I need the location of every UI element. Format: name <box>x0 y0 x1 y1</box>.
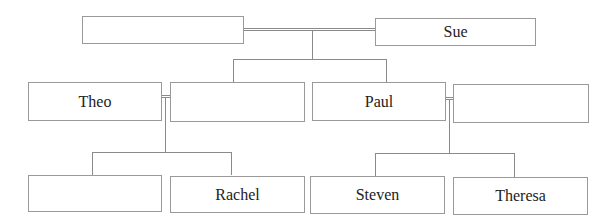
person-box-theo: Theo <box>28 82 162 121</box>
marriage-line-theo <box>162 95 170 98</box>
child-drop <box>92 152 93 175</box>
descent-line-gen1 <box>312 30 313 59</box>
sibling-bar-paul-children <box>375 153 515 154</box>
person-box-paul-spouse-blank <box>453 84 589 123</box>
person-box-paul: Paul <box>312 82 446 121</box>
person-name: Theresa <box>495 187 546 205</box>
person-name: Theo <box>79 93 112 111</box>
child-drop-left <box>233 59 234 82</box>
person-box-theresa: Theresa <box>453 177 588 215</box>
person-box-sue: Sue <box>375 18 536 46</box>
person-name: Steven <box>356 186 400 204</box>
sibling-bar-theo-children <box>92 152 232 153</box>
person-box-grandparent-blank <box>82 16 244 44</box>
person-box-steven: Steven <box>310 176 445 214</box>
person-box-theo-spouse-blank <box>170 82 305 122</box>
child-drop-right <box>386 59 387 82</box>
child-drop <box>375 153 376 176</box>
family-tree-diagram: Sue Theo Paul Rachel Steven Theresa <box>0 0 611 223</box>
person-box-rachel: Rachel <box>170 176 305 213</box>
person-name: Sue <box>444 23 468 41</box>
person-box-theo-child-blank <box>28 175 162 212</box>
descent-line-theo <box>165 97 166 152</box>
descent-line-paul <box>449 99 450 153</box>
child-drop <box>514 153 515 177</box>
person-name: Rachel <box>215 186 259 204</box>
sibling-bar-gen2 <box>233 59 387 60</box>
person-name: Paul <box>365 93 393 111</box>
child-drop <box>231 152 232 175</box>
marriage-line-gen1 <box>244 28 375 31</box>
